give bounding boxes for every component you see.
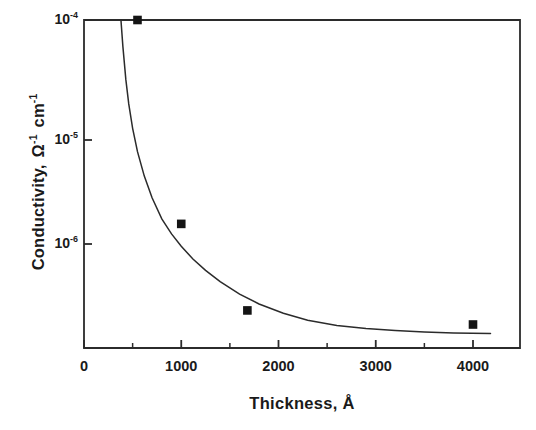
x-tick-label-2: 2000 [249,358,309,374]
fit-curve-group [121,20,491,334]
y-tick-label-0: 10-4 [22,10,78,27]
data-marker-3 [469,320,478,329]
x-tick-label-3: 3000 [346,358,406,374]
data-marker-1 [177,220,186,229]
x-tick-label-4: 4000 [443,358,503,374]
y-axis-major-ticks [84,20,92,244]
conductivity-vs-thickness-figure: Conductivity,Ω-1cm-1 Thickness, Å 10-410… [0,0,536,430]
x-axis-major-ticks [84,340,473,348]
x-tick-label-1: 1000 [151,358,211,374]
data-marker-2 [243,306,252,315]
fit-curve-line [121,20,491,334]
axes-frame [84,20,520,348]
x-axis-title-container: Thickness, Å [84,394,520,413]
data-point-markers [133,16,477,329]
x-axis-title: Thickness, Å [249,394,354,412]
axis-box-path [84,20,520,348]
data-marker-0 [133,16,142,25]
y-axis-title-container: Conductivity,Ω-1cm-1 [24,32,52,332]
x-tick-label-0: 0 [54,358,114,374]
y-tick-label-1: 10-5 [22,130,78,147]
y-tick-label-2: 10-6 [22,234,78,251]
